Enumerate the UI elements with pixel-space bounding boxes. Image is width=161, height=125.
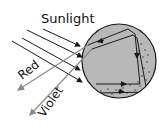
rainbow-raindrop-diagram: Sunlight Red Violet [0, 0, 161, 125]
red-label: Red [15, 57, 42, 82]
sunlight-label: Sunlight [41, 11, 95, 26]
raindrop [82, 24, 156, 98]
violet-label: Violet [35, 84, 66, 120]
